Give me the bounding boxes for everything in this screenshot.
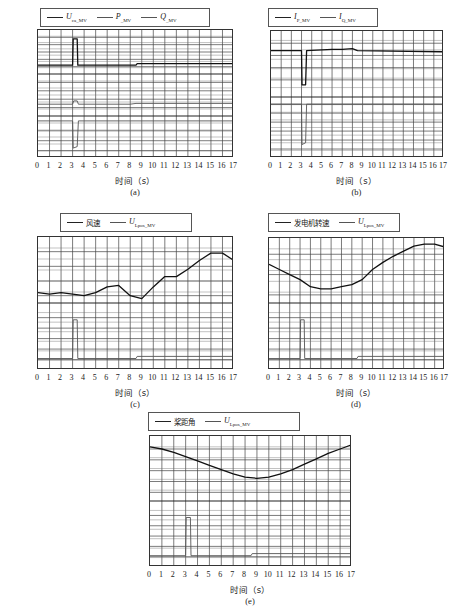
legend-line-swatch (339, 222, 355, 223)
plot-area (149, 435, 351, 566)
x-tick-label: 16 (429, 161, 437, 170)
x-tick-label: 11 (160, 373, 168, 382)
legend-item: P_MV (97, 12, 131, 23)
x-tick-label: 10 (148, 373, 156, 382)
x-tick-label: 8 (127, 161, 131, 170)
x-tick-label: 0 (147, 570, 151, 579)
x-tick-label: 14 (194, 161, 202, 170)
x-tick-label: 13 (299, 570, 307, 579)
legend-item: Uca_MV (47, 12, 87, 23)
x-tick-label: 0 (35, 161, 39, 170)
x-tick-label: 11 (160, 161, 168, 170)
x-tick-label: 8 (242, 570, 246, 579)
legend-item: IQ_MV (320, 12, 356, 23)
x-tick-label: 1 (276, 373, 280, 382)
legend-label: 桨距角 (174, 416, 195, 427)
x-tick-label: 3 (299, 161, 303, 170)
x-tick-label: 15 (419, 161, 427, 170)
legend-item: Q_MV (141, 12, 176, 23)
x-tick-label: 2 (288, 161, 292, 170)
x-tick-label: 9 (359, 373, 363, 382)
x-tick-label: 7 (338, 373, 342, 382)
x-axis-title: 时间（s） (336, 386, 376, 398)
x-tick-label: 5 (318, 373, 322, 382)
x-tick-label: 13 (183, 373, 191, 382)
x-tick-label: 11 (276, 570, 284, 579)
legend-item: ULpos_MV (339, 217, 384, 228)
legend-line-swatch (47, 17, 63, 18)
x-tick-label: 13 (399, 373, 407, 382)
legend: IP_MVIQ_MV (268, 8, 378, 27)
x-tick-label: 2 (58, 373, 62, 382)
legend-subscript: P_MV (297, 18, 310, 23)
x-tick-label: 4 (81, 373, 85, 382)
legend-line-swatch (141, 17, 157, 18)
x-tick-label: 10 (368, 373, 376, 382)
x-tick-label: 5 (93, 161, 97, 170)
x-tick-label: 9 (139, 161, 143, 170)
x-tick-label: 10 (264, 570, 272, 579)
x-tick-label: 4 (195, 570, 199, 579)
x-tick-label: 13 (183, 161, 191, 170)
plot-area (37, 236, 233, 369)
x-tick-label: 17 (229, 373, 237, 382)
legend-line-swatch (320, 17, 336, 18)
legend-line-swatch (97, 17, 113, 18)
x-tick-label: 17 (229, 161, 237, 170)
x-tick-label: 2 (58, 161, 62, 170)
legend-label: ULpos_MV (224, 416, 250, 427)
x-tick-label: 1 (278, 161, 282, 170)
x-tick-label: 3 (297, 373, 301, 382)
x-tick-label: 12 (388, 161, 396, 170)
panel-caption: (b) (352, 187, 362, 197)
x-tick-label: 15 (206, 161, 214, 170)
x-tick-label: 0 (268, 161, 272, 170)
x-tick-label: 5 (206, 570, 210, 579)
x-tick-label: 8 (127, 373, 131, 382)
legend-item: IP_MV (275, 12, 310, 23)
legend-label: IQ_MV (339, 12, 356, 23)
legend-label: IP_MV (294, 12, 310, 23)
legend-line-swatch (275, 17, 291, 18)
legend-line-swatch (67, 222, 83, 223)
legend-line-swatch (155, 421, 171, 422)
x-tick-label: 10 (148, 161, 156, 170)
x-tick-label: 15 (419, 373, 427, 382)
legend-subscript: Lpos_MV (135, 223, 156, 228)
x-tick-label: 3 (70, 373, 74, 382)
x-tick-label: 9 (254, 570, 258, 579)
x-tick-label: 4 (81, 161, 85, 170)
x-tick-label: 1 (159, 570, 163, 579)
legend-subscript: Lpos_MV (230, 422, 251, 427)
x-tick-label: 9 (360, 161, 364, 170)
legend-label: Uca_MV (66, 12, 87, 23)
legend: 风速ULpos_MV (60, 213, 192, 232)
x-axis-title: 时间（s） (230, 583, 270, 595)
x-tick-label: 6 (104, 161, 108, 170)
x-tick-label: 6 (329, 161, 333, 170)
legend-subscript: Q_MV (342, 18, 356, 23)
x-tick-label: 11 (378, 161, 386, 170)
x-tick-label: 4 (307, 373, 311, 382)
legend-item: ULpos_MV (110, 217, 155, 228)
x-tick-label: 1 (47, 161, 51, 170)
x-tick-label: 13 (398, 161, 406, 170)
x-tick-label: 9 (139, 373, 143, 382)
x-tick-label: 7 (116, 161, 120, 170)
x-tick-label: 12 (388, 373, 396, 382)
legend-label: P_MV (116, 12, 131, 23)
x-tick-label: 3 (183, 570, 187, 579)
plot-area (268, 237, 444, 369)
legend-subscript: Lpos_MV (364, 223, 385, 228)
x-tick-label: 11 (378, 373, 386, 382)
x-tick-label: 17 (440, 373, 448, 382)
legend-label: ULpos_MV (358, 217, 384, 228)
legend-subscript: _MV (166, 18, 177, 23)
legend-label: 风速 (86, 217, 100, 228)
x-tick-label: 16 (430, 373, 438, 382)
legend-item: 发电机转速 (275, 217, 329, 228)
x-tick-label: 15 (206, 373, 214, 382)
x-tick-label: 7 (116, 373, 120, 382)
x-tick-label: 6 (104, 373, 108, 382)
plot-area (37, 29, 233, 157)
